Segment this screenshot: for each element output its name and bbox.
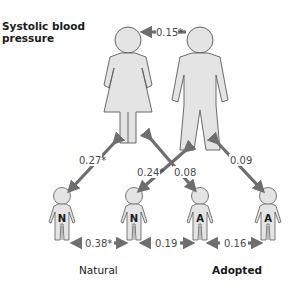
- child-letter: A: [264, 213, 272, 224]
- child-letter: N: [130, 213, 138, 224]
- coef-adopted-adopted: 0.16: [224, 238, 246, 249]
- coef-natural-adopted: 0.19: [155, 238, 177, 249]
- child-adopted-2: A: [255, 188, 281, 241]
- child-natural-2: N: [121, 188, 147, 241]
- child-letter: N: [58, 213, 66, 224]
- coef-mother-adopted: 0.08: [174, 167, 196, 178]
- father-figure: [172, 27, 228, 150]
- coef-mother-natural: 0.27*: [79, 155, 106, 166]
- group-label-adopted: Adopted: [212, 264, 262, 276]
- child-letter: A: [196, 213, 204, 224]
- coef-mother-father: 0.15*: [156, 27, 183, 38]
- child-natural-1: N: [49, 188, 75, 241]
- group-label-natural: Natural: [79, 264, 118, 276]
- child-adopted-1: A: [187, 188, 213, 241]
- mother-figure: [104, 27, 152, 143]
- coef-father-natural: 0.24*: [137, 167, 164, 178]
- correlation-diagram: N N A A 0.15* 0.27* 0.24*: [0, 0, 304, 288]
- correlation-arrows: [70, 32, 262, 243]
- coef-natural-natural: 0.38*: [85, 238, 112, 249]
- coef-father-adopted: 0.09: [230, 155, 252, 166]
